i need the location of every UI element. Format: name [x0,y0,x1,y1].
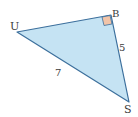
right-angle-marker [102,16,112,26]
side-label-bs: 5 [119,42,125,53]
triangle-ubs [17,15,129,102]
vertex-label-b: B [112,8,119,19]
vertex-label-s: S [124,103,132,116]
side-label-us: 7 [55,67,61,78]
triangle-diagram: U B S 5 7 [0,0,138,117]
vertex-label-u: U [10,20,19,33]
